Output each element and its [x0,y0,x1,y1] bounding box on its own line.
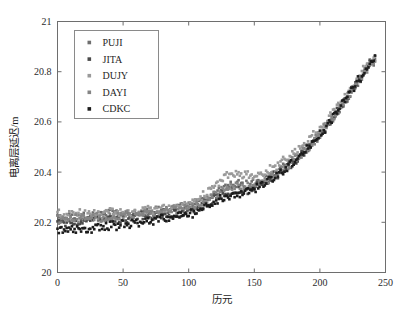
data-point [81,222,84,225]
data-point [214,202,217,205]
data-point [101,220,104,223]
data-point [58,232,61,235]
data-point [109,213,112,216]
data-point [304,151,307,154]
legend-label-cdkc: CDKC [103,103,131,114]
data-point [190,208,193,211]
data-point [67,214,70,217]
data-point [240,188,243,191]
data-point [118,226,121,229]
data-point [202,208,205,211]
data-point [145,220,148,223]
data-point [274,177,277,180]
data-point [233,175,236,178]
data-point [219,194,222,197]
data-point [354,85,357,88]
data-point [292,163,295,166]
data-point [208,198,211,201]
data-point [250,173,253,176]
data-point [204,196,207,199]
data-point [311,134,314,137]
data-point [281,158,284,161]
data-point [165,220,168,223]
data-point [324,131,327,134]
data-point [151,219,154,222]
data-point [237,171,240,174]
data-point [105,222,108,225]
data-point [186,202,189,205]
data-point [109,215,112,218]
data-point [307,147,310,150]
data-point [355,80,358,83]
legend-marker-jita [88,57,92,61]
data-point [97,218,100,221]
ionospheric-delay-chart-figure: 050100150200250 2020.220.420.620.821 历元电… [0,0,406,315]
data-point [206,194,209,197]
data-point [77,212,80,215]
data-point [119,222,122,225]
data-point [127,222,130,225]
data-point [229,195,232,198]
data-point [84,227,87,230]
data-point [96,212,99,215]
data-point [183,204,186,207]
y-axis-title: 电离层延迟/m [8,116,20,177]
data-point [340,104,343,107]
data-point [182,207,185,210]
data-point [86,231,89,234]
data-point [101,228,104,231]
data-point [189,212,192,215]
data-point [130,225,133,228]
data-point [338,108,341,111]
data-point [261,181,264,184]
data-point [270,176,273,179]
data-point [243,176,246,179]
data-point [174,209,177,212]
data-point [138,225,141,228]
data-point [361,70,364,73]
data-point [296,151,299,154]
data-point [172,217,175,220]
data-point [325,125,328,128]
legend-marker-dujy [88,74,92,78]
data-point [118,218,121,221]
data-point [156,215,159,218]
data-point [326,122,329,125]
y-tick-label: 21 [42,16,52,27]
data-point [63,213,66,216]
data-point [333,118,336,121]
data-point [372,60,375,63]
data-point [365,65,368,68]
data-point [187,215,190,218]
data-point [229,181,232,184]
data-point [174,206,177,209]
data-point [68,210,71,213]
data-point [291,150,294,153]
data-point [143,221,146,224]
data-point [216,202,219,205]
data-point [215,199,218,202]
data-point [56,214,59,217]
data-point [144,206,147,209]
data-point [166,216,169,219]
data-point [114,223,117,226]
data-point [149,221,152,224]
data-point [323,129,326,132]
data-point [170,211,173,214]
data-point [134,209,137,212]
data-point [193,210,196,213]
data-point [232,185,235,188]
chart-canvas: 050100150200250 2020.220.420.620.821 历元电… [0,0,406,315]
legend-marker-puji [88,41,92,45]
data-point [138,211,141,214]
data-point [69,215,72,218]
data-point [115,218,118,221]
data-point [336,112,339,115]
data-point [194,198,197,201]
data-point [294,161,297,164]
data-point [194,206,197,209]
data-point [97,223,100,226]
data-point [232,192,235,195]
data-point [319,129,322,132]
data-point [211,196,214,199]
